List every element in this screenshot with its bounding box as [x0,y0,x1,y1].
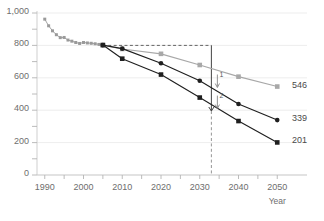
data-point-historical [70,40,73,43]
data-point-historical [55,33,58,36]
data-point-historical [51,29,54,32]
data-point-historical [78,42,81,45]
data-point-historical [74,41,77,44]
series-line-projection-lower [103,45,277,142]
data-point-historical [82,41,85,44]
data-point-projection-lower [120,56,125,61]
series-line-projection-middle [103,45,277,120]
data-point-projection-lower [159,72,164,77]
line-chart [0,0,324,221]
data-point-historical [86,41,89,44]
data-point-historical [59,36,62,39]
data-point-historical [98,43,101,46]
data-point-historical [63,36,66,39]
data-point-projection-lower [275,140,280,145]
data-point-projection-lower [101,43,106,48]
chart-container: 02004006008001,0001990200020102020203020… [0,0,324,221]
data-point-projection-lower [197,95,202,100]
data-point-projection-middle [236,102,241,107]
data-point-projection-upper [275,84,280,89]
data-point-historical [67,39,70,42]
data-point-historical [43,18,46,21]
data-point-historical [94,42,97,45]
data-point-historical [90,42,93,45]
data-point-projection-upper [236,74,241,79]
data-point-projection-upper [159,52,164,57]
data-point-projection-upper [197,63,202,68]
data-point-projection-lower [236,119,241,124]
data-point-projection-middle [120,46,125,51]
data-point-historical [47,24,50,27]
data-point-projection-middle [275,118,280,123]
data-point-projection-middle [159,61,164,66]
data-point-projection-middle [197,78,202,83]
